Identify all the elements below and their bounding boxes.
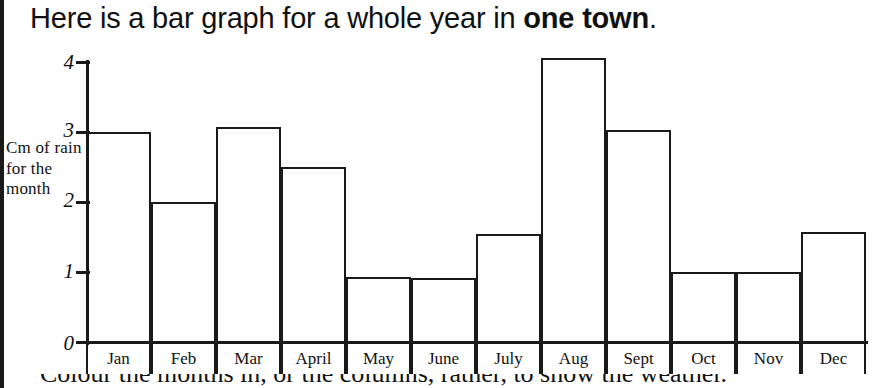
y-tick-4: [76, 61, 90, 64]
x-label-sept: Sept: [606, 344, 671, 374]
bar-may: [346, 277, 411, 343]
bar-chart: 4 3 2 1 0 Cm of rain for the month Jan F…: [0, 0, 879, 388]
bar-aug: [541, 58, 606, 343]
bar-july: [476, 234, 541, 343]
y-tick-label-1: 1: [48, 261, 74, 282]
bar-dec: [801, 232, 866, 343]
x-label-jan: Jan: [86, 344, 151, 374]
x-label-feb: Feb: [151, 344, 216, 374]
bar-feb: [151, 202, 216, 343]
bar-june: [411, 278, 476, 343]
y-axis-label: Cm of rain for the month: [6, 138, 84, 200]
x-label-aug: Aug: [541, 344, 606, 374]
x-label-may: May: [346, 344, 411, 374]
bar-april: [281, 167, 346, 343]
bar-oct: [671, 272, 736, 343]
x-label-june: June: [411, 344, 476, 374]
x-label-july: July: [476, 344, 541, 374]
x-label-mar: Mar: [216, 344, 281, 374]
x-label-april: April: [281, 344, 346, 374]
y-tick-label-0: 0: [48, 333, 74, 354]
cutoff-text-row: Colour the months in, or the columns, ra…: [40, 374, 840, 388]
bar-jan: [86, 132, 151, 343]
bar-sept: [606, 130, 671, 343]
y-tick-label-4: 4: [48, 52, 74, 73]
x-label-nov: Nov: [736, 344, 801, 374]
bar-mar: [216, 127, 281, 343]
x-label-dec: Dec: [801, 344, 866, 374]
bar-nov: [736, 272, 801, 343]
worksheet-page: Here is a bar graph for a whole year in …: [0, 0, 879, 388]
cutoff-text: Colour the months in, or the columns, ra…: [40, 374, 840, 387]
x-label-oct: Oct: [671, 344, 736, 374]
